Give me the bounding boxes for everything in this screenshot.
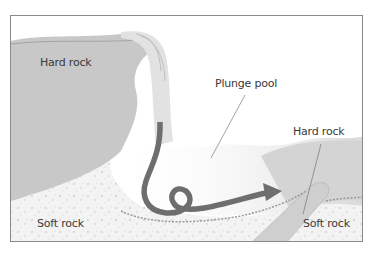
label-soft-rock-right: Soft rock (303, 217, 350, 230)
label-hard-rock-left: Hard rock (40, 56, 91, 69)
label-plunge-pool: Plunge pool (215, 77, 277, 90)
label-soft-rock-left: Soft rock (37, 217, 84, 230)
label-hard-rock-right: Hard rock (293, 125, 344, 138)
